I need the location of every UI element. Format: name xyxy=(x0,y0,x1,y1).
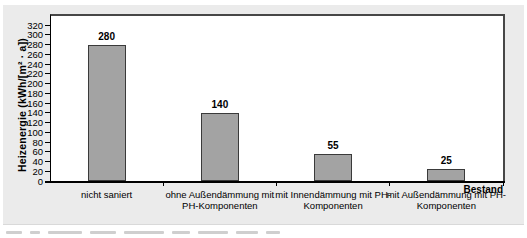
y-tick-label: 240 xyxy=(13,59,43,70)
caption-mark xyxy=(48,231,82,234)
y-tick-mark xyxy=(45,93,50,94)
y-tick-label: 80 xyxy=(13,137,43,148)
caption-mark xyxy=(198,231,228,234)
caption-mark xyxy=(124,231,164,234)
caption-mark xyxy=(90,231,116,234)
x-tick-mark xyxy=(163,181,164,186)
y-tick-mark xyxy=(45,64,50,65)
y-tick-mark xyxy=(45,103,50,104)
y-tick-mark xyxy=(45,132,50,133)
y-tick-mark xyxy=(45,112,50,113)
cropped-caption-fragment xyxy=(6,231,288,236)
y-tick-mark xyxy=(45,83,50,84)
y-tick-label: 280 xyxy=(13,39,43,50)
chart-layer: 0204060801001201401601802002202402602803… xyxy=(0,0,527,238)
y-tick-label: 260 xyxy=(13,49,43,60)
y-tick-mark xyxy=(45,73,50,74)
y-tick-mark xyxy=(45,151,50,152)
bar xyxy=(201,113,239,181)
y-tick-mark xyxy=(45,54,50,55)
x-tick-mark xyxy=(276,181,277,186)
y-tick-mark xyxy=(45,171,50,172)
y-tick-label: 180 xyxy=(13,88,43,99)
y-tick-label: 0 xyxy=(13,176,43,187)
y-tick-label: 60 xyxy=(13,146,43,157)
bar-value-label: 280 xyxy=(77,31,137,42)
bar-value-label: 25 xyxy=(416,155,476,166)
y-tick-label: 220 xyxy=(13,68,43,79)
y-tick-label: 20 xyxy=(13,166,43,177)
caption-mark xyxy=(6,231,22,234)
y-tick-mark xyxy=(45,44,50,45)
bar-value-label: 140 xyxy=(190,99,250,110)
caption-mark xyxy=(30,231,40,234)
y-tick-mark xyxy=(45,181,50,182)
y-tick-label: 140 xyxy=(13,107,43,118)
y-tick-label: 300 xyxy=(13,29,43,40)
bar xyxy=(314,154,352,181)
y-tick-mark xyxy=(45,142,50,143)
caption-mark xyxy=(266,231,280,234)
y-tick-mark xyxy=(45,122,50,123)
figure: Heizenergie (kWh/[m² · a]) 0204060801001… xyxy=(0,0,527,238)
y-tick-mark xyxy=(45,25,50,26)
caption-mark xyxy=(172,231,190,234)
y-tick-label: 100 xyxy=(13,127,43,138)
x-tick-mark xyxy=(389,181,390,186)
bar-value-label: 55 xyxy=(303,140,363,151)
y-tick-label: 160 xyxy=(13,98,43,109)
y-tick-label: 120 xyxy=(13,117,43,128)
caption-mark xyxy=(236,231,258,234)
x-category-label-line: Komponenten xyxy=(379,200,513,211)
y-tick-label: 320 xyxy=(13,20,43,31)
y-tick-mark xyxy=(45,161,50,162)
bestand-label: Bestand xyxy=(464,184,503,195)
bar xyxy=(88,45,126,182)
y-tick-label: 40 xyxy=(13,156,43,167)
y-tick-label: 200 xyxy=(13,78,43,89)
y-tick-mark xyxy=(45,34,50,35)
bar xyxy=(427,169,465,181)
